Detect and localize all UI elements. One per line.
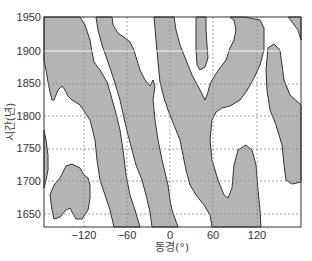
y-tick-1750: 1750	[17, 142, 41, 154]
y-tick-1900: 1900	[17, 45, 41, 57]
x-tick-neg120: −120	[72, 229, 97, 241]
x-tick-60: 60	[207, 229, 219, 241]
x-tick-neg60: −60	[118, 229, 137, 241]
y-tick-1800: 1800	[17, 110, 41, 122]
x-axis: −120 −60 0 60 120	[72, 229, 267, 241]
y-tick-1950: 1950	[17, 11, 41, 23]
region-left-sliver	[44, 130, 48, 188]
x-axis-label: 동경(°)	[155, 241, 189, 254]
y-tick-1700: 1700	[17, 175, 41, 187]
y-tick-1850: 1850	[17, 77, 41, 89]
contour-chart: 1950 1900 1850 1800 1750 1700 1650 시간(년)…	[0, 0, 312, 261]
region-island-east	[266, 44, 301, 184]
shaded-regions	[44, 17, 301, 227]
y-axis-label: 시간(년)	[4, 103, 17, 142]
y-tick-1650: 1650	[17, 208, 41, 220]
region-band-3	[154, 17, 264, 227]
x-tick-0: 0	[167, 229, 173, 241]
y-axis: 1950 1900 1850 1800 1750 1700 1650	[17, 11, 41, 220]
region-corner-northeast	[288, 17, 301, 40]
region-finger-top	[196, 17, 208, 70]
x-tick-120: 120	[248, 229, 266, 241]
